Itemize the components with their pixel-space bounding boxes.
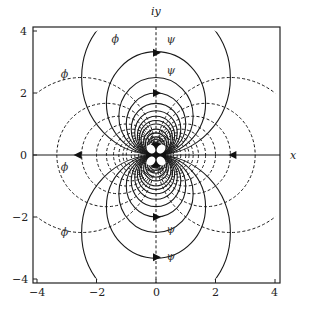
- dipole-flow-diagram: iy x −4 −2 0 2 4 4 2 0 −2 −4 ψψψψϕϕϕϕ: [0, 0, 310, 300]
- phi-label: ϕ: [61, 226, 69, 239]
- x-tick-label: −4: [29, 286, 45, 299]
- arrowhead-icon: [153, 89, 161, 97]
- phi-label: ϕ: [111, 33, 119, 46]
- x-tick-label: 0: [153, 286, 160, 299]
- x-tick-label: 4: [271, 286, 278, 299]
- arrowhead-icon: [153, 213, 161, 221]
- psi-label: ψ: [166, 223, 175, 236]
- arrowhead-icon: [228, 151, 236, 159]
- arrowhead-icon: [153, 253, 161, 261]
- phi-label: ϕ: [61, 68, 69, 81]
- y-tick-label: −2: [12, 211, 28, 224]
- caption-fragment: [0, 300, 310, 311]
- x-axis-label: x: [290, 149, 297, 162]
- y-tick-label: 4: [20, 25, 27, 38]
- psi-label: ψ: [166, 250, 175, 263]
- y-tick-label: 2: [20, 87, 27, 100]
- axes: [33, 27, 280, 283]
- y-tick-label: −4: [12, 273, 28, 286]
- arrowhead-icon: [74, 151, 82, 159]
- x-tick-label: 2: [212, 286, 219, 299]
- arrowhead-icon: [153, 49, 161, 57]
- x-tick-label: −2: [89, 286, 105, 299]
- phi-label: ϕ: [61, 161, 69, 174]
- psi-label: ψ: [166, 33, 175, 46]
- y-tick-label: 0: [20, 149, 27, 162]
- y-axis-label: iy: [151, 5, 162, 18]
- psi-label: ψ: [166, 64, 175, 77]
